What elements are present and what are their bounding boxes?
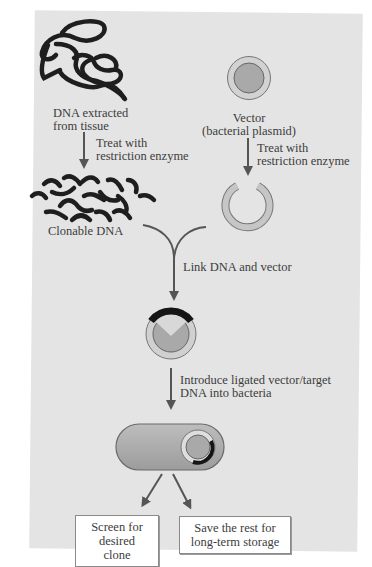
outcome-storage-line2: long-term storage bbox=[188, 535, 282, 549]
vector-treat-line2: restriction enzyme bbox=[257, 155, 350, 168]
outcome-storage-box: Save the rest for long-term storage bbox=[179, 516, 291, 554]
outcome-screen-box: Screen for desired clone bbox=[75, 515, 159, 567]
recombinant-plasmid-icon bbox=[146, 309, 196, 359]
introduce-line2: DNA into bacteria bbox=[180, 387, 331, 400]
arrow-to-screen bbox=[144, 474, 162, 503]
link-step-label: Link DNA and vector bbox=[183, 261, 292, 274]
dna-source-label-line2: from tissue bbox=[53, 120, 128, 133]
vector-label: Vector (bacterial plasmid) bbox=[200, 112, 298, 138]
vector-treat-step: Treat with restriction enzyme bbox=[257, 142, 350, 168]
arrow-to-storage bbox=[173, 474, 189, 505]
clonable-dna-label: Clonable DNA bbox=[48, 225, 123, 238]
cloning-diagram: DNA extracted from tissue Vector (bacter… bbox=[0, 0, 372, 567]
vector-label-line2: (bacterial plasmid) bbox=[200, 125, 298, 138]
outcome-screen-line2: desired clone bbox=[84, 534, 150, 562]
dna-source-label: DNA extracted from tissue bbox=[53, 107, 128, 133]
opened-plasmid-icon bbox=[225, 186, 269, 227]
outcome-screen-line1: Screen for bbox=[84, 520, 150, 534]
tangled-dna-icon bbox=[42, 21, 125, 99]
bacterium-with-plasmid-icon bbox=[116, 424, 224, 470]
diagram-graphics bbox=[0, 0, 372, 567]
dna-treat-step: Treat with restriction enzyme bbox=[96, 137, 189, 163]
outcome-storage-line1: Save the rest for bbox=[188, 521, 282, 535]
introduce-step: Introduce ligated vector/target DNA into… bbox=[180, 374, 331, 400]
plasmid-icon bbox=[228, 57, 271, 100]
dna-fragments-icon bbox=[32, 176, 154, 220]
dna-treat-line2: restriction enzyme bbox=[96, 150, 189, 163]
